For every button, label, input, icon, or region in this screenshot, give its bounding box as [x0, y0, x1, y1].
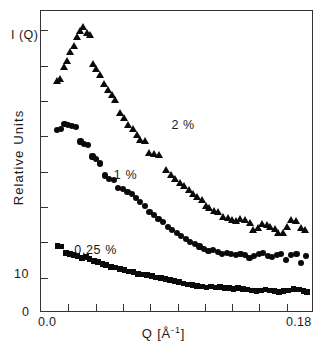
- circle-marker-icon: [283, 257, 289, 263]
- y-axis-tick: [41, 66, 48, 67]
- y-axis-tick: [41, 136, 48, 137]
- x-axis-tick: [123, 304, 124, 311]
- square-marker-icon: [59, 244, 65, 250]
- triangle-marker-icon: [56, 75, 64, 82]
- series-label-2pct: 2 %: [171, 118, 194, 132]
- y-axis-tick: [41, 207, 48, 208]
- y-axis-tick: [41, 278, 48, 279]
- triangle-marker-icon: [66, 48, 74, 55]
- x-axis-tick: [68, 304, 69, 311]
- x-axis-title: Q [Å-1]: [0, 325, 327, 341]
- circle-marker-icon: [85, 142, 91, 148]
- x-axis-unit-angstrom: Å: [162, 326, 171, 341]
- series-label-025pct: 0.25 %: [74, 243, 117, 257]
- y-axis-tick: [41, 172, 48, 173]
- triangle-marker-icon: [111, 96, 119, 103]
- x-axis-title-q: Q [: [142, 326, 162, 341]
- x-axis-tick: [259, 304, 260, 311]
- circle-marker-icon: [298, 260, 304, 266]
- triangle-marker-icon: [301, 226, 309, 233]
- triangle-marker-icon: [292, 217, 300, 224]
- triangle-marker-icon: [120, 114, 128, 121]
- plot-area: [41, 11, 312, 311]
- triangle-marker-icon: [73, 33, 81, 40]
- circle-marker-icon: [97, 160, 103, 166]
- y-axis-tick: [41, 30, 48, 31]
- scattering-intensity-figure: I (Q) Relative Units 2 %1 %0.25 % 0 10 0…: [0, 0, 327, 346]
- triangle-marker-icon: [141, 137, 149, 144]
- y-axis-title: Relative Units: [11, 98, 26, 218]
- circle-marker-icon: [142, 203, 148, 209]
- x-axis-tick: [178, 304, 179, 311]
- plot-frame: 2 %1 %0.25 %: [40, 10, 313, 312]
- y-axis-tick: [41, 101, 48, 102]
- triangle-marker-icon: [279, 229, 287, 236]
- y-axis-tick: [41, 242, 48, 243]
- iq-axis-label: I (Q): [11, 28, 39, 42]
- x-axis-tick: [150, 304, 151, 311]
- triangle-marker-icon: [96, 71, 104, 78]
- triangle-marker-icon: [70, 42, 78, 49]
- series-label-1pct: 1 %: [114, 168, 137, 182]
- x-axis-title-close: ]: [181, 326, 185, 341]
- circle-marker-icon: [293, 251, 299, 257]
- x-axis-tick: [96, 304, 97, 311]
- x-axis-tick: [287, 304, 288, 311]
- circle-marker-icon: [73, 124, 79, 130]
- square-marker-icon: [304, 289, 310, 295]
- x-axis-tick: [232, 304, 233, 311]
- triangle-marker-icon: [283, 223, 291, 230]
- triangle-marker-icon: [60, 63, 68, 70]
- x-axis-tick: [205, 304, 206, 311]
- triangle-marker-icon: [63, 57, 71, 64]
- x-axis-unit-exponent: -1: [171, 325, 181, 335]
- triangle-marker-icon: [155, 151, 163, 158]
- circle-marker-icon: [278, 251, 284, 257]
- triangle-marker-icon: [86, 31, 94, 38]
- circle-marker-icon: [303, 253, 309, 259]
